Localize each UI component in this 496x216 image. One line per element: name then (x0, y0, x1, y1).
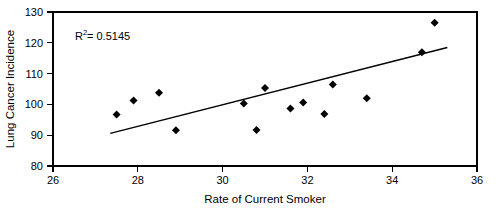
data-point (261, 84, 269, 92)
x-axis-ticks (53, 166, 477, 172)
y-tick-label-100: 100 (25, 98, 43, 110)
y-tick-label-80: 80 (31, 160, 43, 172)
data-point (329, 80, 337, 88)
data-point (431, 19, 439, 27)
x-axis-title: Rate of Current Smoker (204, 193, 326, 205)
data-point (363, 94, 371, 102)
x-tick-label-32: 32 (301, 174, 313, 186)
scatter-chart-figure: 80 90 100 110 120 130 26 28 30 32 34 36 … (0, 0, 496, 216)
data-point (320, 110, 328, 118)
plot-canvas: 80 90 100 110 120 130 26 28 30 32 34 36 … (0, 0, 496, 216)
y-tick-label-130: 130 (25, 6, 43, 18)
data-point (286, 104, 294, 112)
x-tick-label-28: 28 (132, 174, 144, 186)
data-point-markers (113, 19, 439, 134)
data-point (130, 96, 138, 104)
data-point (299, 99, 307, 107)
x-tick-label-26: 26 (47, 174, 59, 186)
trend-line-group (110, 47, 447, 133)
regression-line (110, 47, 447, 133)
r-squared-prefix: R (75, 30, 83, 42)
data-point (155, 89, 163, 97)
y-tick-label-90: 90 (31, 129, 43, 141)
x-axis-tick-labels: 26 28 30 32 34 36 (47, 174, 483, 186)
r-squared-value: = 0.5145 (87, 30, 130, 42)
y-tick-label-120: 120 (25, 37, 43, 49)
x-tick-label-34: 34 (386, 174, 398, 186)
y-axis-ticks (47, 12, 53, 166)
r-squared-annotation: R 2 = 0.5145 (75, 28, 130, 42)
x-tick-label-30: 30 (216, 174, 228, 186)
y-tick-label-110: 110 (25, 68, 43, 80)
data-point (253, 126, 261, 134)
y-axis-title: Lung Cancer Incidence (4, 30, 16, 148)
data-point (172, 126, 180, 134)
y-axis-tick-labels: 80 90 100 110 120 130 (25, 6, 43, 172)
data-point (113, 111, 121, 119)
x-tick-label-36: 36 (471, 174, 483, 186)
